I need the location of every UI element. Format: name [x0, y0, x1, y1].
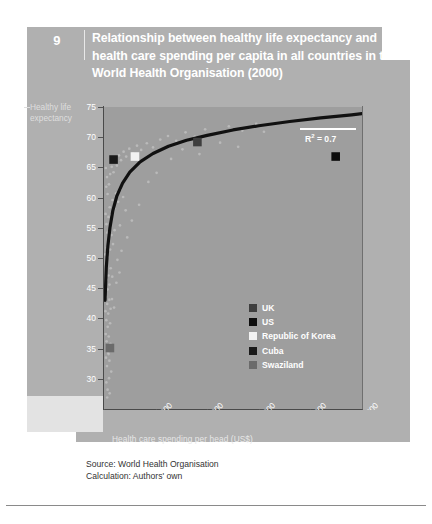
calculation-line: Calculation: Authors' own	[86, 471, 219, 483]
scatter-point	[111, 275, 114, 278]
scatter-point	[125, 155, 128, 158]
legend-item-us: US	[249, 315, 355, 329]
scatter-point	[104, 167, 107, 170]
scatter-point	[128, 147, 131, 150]
source-line: Source: World Health Organisation	[86, 459, 219, 471]
figure-container: 9 Relationship between healthy life expe…	[0, 0, 432, 524]
scatter-point	[105, 319, 108, 322]
r-squared-label: R2 = 0.7	[305, 133, 336, 144]
scatter-point	[119, 224, 122, 227]
scatter-point	[106, 396, 109, 399]
scatter-point	[106, 388, 109, 391]
y-tick-label: 75	[74, 102, 96, 112]
scatter-point	[105, 185, 108, 188]
scatter-point	[107, 335, 110, 338]
chart-legend: UKUSRepublic of KoreaCubaSwaziland	[249, 301, 355, 372]
scatter-point	[167, 135, 170, 138]
x-axis-title: Health care spending per head (US$)	[112, 434, 253, 444]
plot-right-border	[362, 106, 363, 410]
panel-notch	[27, 396, 103, 432]
scatter-point	[105, 356, 108, 359]
scatter-point	[116, 164, 119, 167]
legend-label: UK	[262, 303, 274, 313]
y-tick-label: 70	[74, 132, 96, 142]
legend-item-swaziland: Swaziland	[249, 358, 355, 372]
scatter-point	[109, 173, 112, 176]
scatter-point	[118, 154, 121, 157]
scatter-point	[113, 229, 116, 232]
highlight-marker-uk	[193, 138, 202, 147]
legend-swatch-icon	[249, 347, 257, 355]
scatter-point	[108, 359, 111, 362]
scatter-point	[105, 381, 108, 384]
scatter-point	[111, 298, 114, 301]
figure-title: Relationship between healthy life expect…	[92, 30, 398, 83]
legend-label: Republic of Korea	[262, 331, 336, 341]
scatter-point	[106, 176, 109, 179]
scatter-point	[108, 298, 111, 301]
scatter-point	[107, 353, 110, 356]
y-tick-label: 55	[74, 223, 96, 233]
scatter-point	[116, 258, 119, 261]
scatter-point	[109, 322, 112, 325]
scatter-point	[263, 130, 266, 133]
y-tick-mark	[98, 167, 103, 168]
y-axis-line	[103, 106, 104, 410]
y-tick-mark	[98, 258, 103, 259]
highlight-marker-swaziland	[106, 344, 115, 353]
scatter-point	[108, 206, 111, 209]
scatter-point	[237, 146, 240, 149]
legend-label: Cuba	[262, 346, 283, 356]
scatter-point	[106, 193, 109, 196]
legend-swatch-icon	[249, 332, 257, 340]
scatter-point	[228, 125, 231, 128]
source-block: Source: World Health Organisation Calcul…	[86, 459, 219, 482]
y-tick-mark	[98, 137, 103, 138]
legend-label: Swaziland	[262, 360, 304, 370]
scatter-point	[110, 370, 113, 373]
scatter-point	[120, 249, 123, 252]
scatter-point	[104, 333, 107, 336]
scatter-point	[170, 158, 173, 161]
scatter-point	[122, 196, 125, 199]
scatter-point	[138, 204, 141, 207]
scatter-point	[219, 141, 222, 144]
scatter-point	[152, 146, 155, 149]
y-tick-mark	[98, 379, 103, 380]
y-tick-mark	[98, 107, 103, 108]
y-tick-mark	[98, 198, 103, 199]
r-squared-rule	[300, 128, 356, 130]
legend-swatch-icon	[249, 304, 257, 312]
scatter-point	[112, 243, 115, 246]
y-tick-label: 30	[74, 374, 96, 384]
scatter-point	[110, 165, 113, 168]
scatter-point	[117, 200, 120, 203]
scatter-point	[108, 377, 111, 380]
scatter-point	[159, 138, 162, 141]
scatter-point	[131, 219, 134, 222]
scatter-point	[107, 216, 110, 219]
scatter-point	[111, 199, 114, 202]
legend-item-uk: UK	[249, 301, 355, 315]
scatter-point	[107, 312, 110, 315]
y-tick-mark	[98, 349, 103, 350]
scatter-point	[106, 303, 109, 306]
chapter-number: 9	[38, 33, 76, 48]
highlight-marker-cuba	[109, 155, 118, 164]
scatter-point	[113, 306, 116, 309]
scatter-point	[122, 150, 125, 153]
scatter-point	[136, 144, 139, 147]
scatter-point	[104, 310, 107, 313]
scatter-point	[126, 236, 129, 239]
scatter-point	[120, 159, 123, 162]
scatter-point	[115, 281, 118, 284]
scatter-point	[204, 128, 207, 131]
scatter-point	[105, 340, 108, 343]
scatter-point	[104, 213, 107, 216]
y-tick-label: 45	[74, 283, 96, 293]
header-divider	[84, 30, 85, 60]
legend-swatch-icon	[249, 318, 257, 326]
scatter-point	[106, 365, 109, 368]
scatter-point	[109, 307, 112, 310]
scatter-point	[105, 223, 108, 226]
